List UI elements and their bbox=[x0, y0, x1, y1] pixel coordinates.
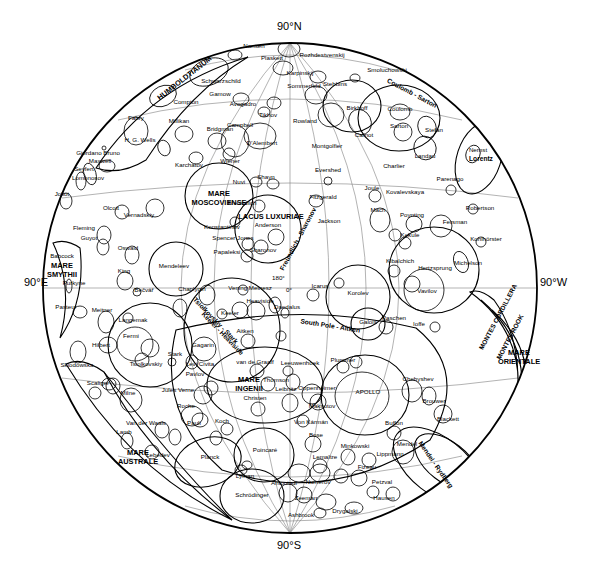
crater-label-120: Lippmann bbox=[376, 450, 404, 457]
crater-label-99: APOLLO bbox=[356, 388, 381, 395]
crater-label-71: Vavilov bbox=[417, 287, 437, 294]
crater-label-33: Evershed bbox=[315, 166, 342, 173]
mare-label-6: LACUS LUXURIAE bbox=[238, 212, 303, 221]
crater-label-93: Pavlov bbox=[186, 370, 205, 377]
crater-label-61: Kibalchich bbox=[386, 257, 415, 264]
crater-label-76: Meitner bbox=[92, 306, 113, 313]
crater-label-86: Stark bbox=[168, 350, 183, 357]
crater-label-107: Koch bbox=[215, 417, 230, 424]
crater-label-9: Compton bbox=[173, 98, 199, 105]
crater-label-53: Kekule bbox=[401, 231, 420, 238]
crater-label-16: Nernst bbox=[469, 146, 488, 153]
crater-label-91: Leeuwenhoek bbox=[281, 359, 320, 366]
crater-label-44: Olcott bbox=[103, 204, 119, 211]
crater-label-57: Oswald bbox=[118, 244, 139, 251]
crater-label-4: Stebbins bbox=[323, 80, 347, 87]
crater-label-102: Roche bbox=[177, 402, 195, 409]
mare-label-3-line2: SMYTHII bbox=[47, 270, 77, 279]
crater-label-59: Papaleksi bbox=[214, 248, 241, 255]
crater-label-96: Milne bbox=[121, 389, 136, 396]
crater-label-67: Beĉvář bbox=[134, 286, 154, 293]
crater-label-118: Mendel bbox=[397, 440, 417, 447]
crater-label-14: Sarton bbox=[390, 122, 409, 129]
crater-label-21: Rowland bbox=[293, 117, 318, 124]
crater-label-47: Mach bbox=[370, 206, 386, 213]
crater-label-84: Aitken bbox=[236, 327, 254, 334]
lunar-farside-map: NansenRozhdestvenskijPlaskettKarpinskijS… bbox=[0, 0, 589, 576]
crater-label-34: Seyfert bbox=[74, 165, 94, 172]
crater-label-103: Maksutov bbox=[309, 402, 336, 409]
crater-label-110: Blackett bbox=[437, 415, 459, 422]
crater-label-1: Rozhdestvenskij bbox=[299, 51, 344, 58]
crater-label-130: Drygalski bbox=[332, 507, 357, 514]
crater-label-65: King bbox=[118, 267, 131, 274]
crater-label-43: Poynting bbox=[400, 211, 425, 218]
crater-label-52: Konstantinov bbox=[204, 223, 241, 230]
crater-label-58: Sharonov bbox=[250, 246, 277, 253]
crater-label-101: Leibnitz bbox=[275, 385, 296, 392]
crater-label-121: Lyman bbox=[236, 472, 255, 479]
crater-label-79: Paschen bbox=[382, 314, 407, 321]
crater-label-42: Fitzgerald bbox=[309, 193, 337, 200]
mare-label-4-line1: MARE bbox=[508, 348, 530, 357]
crater-label-85: Gagarin bbox=[192, 341, 215, 348]
crater-label-104: Brouwer bbox=[422, 397, 445, 404]
crater-label-88: Sklodowska bbox=[60, 361, 94, 368]
crater-label-56: Spencer Jones bbox=[212, 234, 253, 241]
crater-label-54: Kohlhörster bbox=[470, 235, 502, 242]
crater-label-22: Carnot bbox=[355, 131, 374, 138]
crater-label-62: Hertzsprung bbox=[418, 264, 452, 271]
crater-label-2: Plaskett bbox=[261, 54, 283, 61]
crater-label-38: Joule bbox=[365, 184, 380, 191]
center-longitude-180: 180° bbox=[272, 274, 285, 281]
crater-label-123: Antoniadi bbox=[271, 479, 297, 486]
crater-label-70: Korolev bbox=[348, 289, 370, 296]
crater-label-119: Lemaître bbox=[313, 453, 338, 460]
crater-label-5: Smoluchowski bbox=[367, 66, 407, 73]
crater-label-36: Shayn bbox=[257, 173, 275, 180]
crater-label-111: Lamb bbox=[116, 428, 132, 435]
crater-label-109: Von Kármán bbox=[294, 418, 329, 425]
crater-label-26: Montgolfier bbox=[312, 142, 343, 149]
crater-label-17: Fabry bbox=[128, 114, 145, 121]
crater-label-112: Buffon bbox=[385, 419, 403, 426]
crater-label-55: Guyot bbox=[81, 234, 98, 241]
crater-label-73: Heaviside bbox=[246, 297, 274, 304]
longitude-label-east: 90°E bbox=[24, 276, 48, 288]
mare-label-1-line1: MARE bbox=[238, 375, 260, 384]
crater-label-24: H. G. Wells bbox=[124, 136, 155, 143]
crater-label-31: Karchatov bbox=[175, 161, 204, 168]
crater-label-7: Sommerfeld bbox=[287, 82, 321, 89]
crater-label-60: Michelson bbox=[454, 259, 482, 266]
crater-label-66: Purkyne bbox=[63, 279, 86, 286]
crater-label-30: Maxwell bbox=[89, 157, 111, 164]
crater-label-126: Schrödinger bbox=[235, 491, 268, 498]
crater-label-12: Birkhoff bbox=[347, 104, 368, 111]
mare-label-2-line2: AUSTRALE bbox=[118, 457, 158, 466]
crater-label-124: Numerov bbox=[305, 478, 331, 485]
crater-label-122: Fizeau bbox=[358, 463, 377, 470]
crater-label-63: Babcock bbox=[50, 252, 75, 259]
crater-label-28: Parenago bbox=[437, 175, 464, 182]
crater-label-49: Jackson bbox=[318, 217, 341, 224]
crater-label-80: Galois bbox=[359, 318, 377, 325]
crater-label-20: Campbell bbox=[227, 121, 253, 128]
crater-label-39: Kovalevskaya bbox=[386, 188, 425, 195]
crater-label-128: Hausen bbox=[373, 494, 395, 501]
crater-label-129: Ashbrook bbox=[288, 511, 315, 518]
longitude-label-west: 90°W bbox=[540, 276, 567, 288]
center-longitude-0: 0° bbox=[286, 286, 292, 293]
crater-label-45: Vernadskiy bbox=[124, 211, 155, 218]
crater-label-10: Avogadro bbox=[230, 100, 257, 107]
crater-label-87: Tsiolkovskiy bbox=[130, 360, 164, 367]
crater-label-116: Poincaré bbox=[253, 446, 278, 453]
crater-label-78: Keeler bbox=[221, 309, 239, 316]
crater-label-94: Scaliger bbox=[87, 379, 109, 386]
crater-label-127: Zeeman bbox=[295, 494, 318, 501]
crater-label-72: Icarus bbox=[312, 282, 329, 289]
crater-label-106: Van der Waals bbox=[126, 419, 166, 426]
crater-label-113: Bose bbox=[309, 431, 324, 438]
crater-label-3: Karpinskij bbox=[287, 69, 314, 76]
mare-label-3-line1: MARE bbox=[51, 261, 73, 270]
basin-label-6: Lorentz bbox=[469, 155, 494, 162]
